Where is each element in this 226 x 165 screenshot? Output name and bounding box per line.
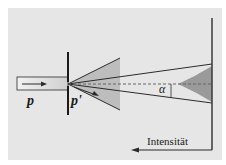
angle-alpha-label: α bbox=[159, 82, 166, 96]
intensity-label: Intensität bbox=[147, 135, 188, 147]
momentum-in-label: p bbox=[26, 93, 34, 108]
momentum-out-label: p' bbox=[70, 93, 82, 108]
slit-diffraction-diagram: α Intensität p p' bbox=[0, 0, 226, 165]
